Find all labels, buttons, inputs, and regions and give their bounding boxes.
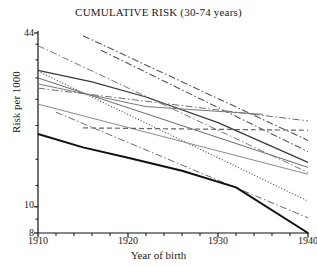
x-tick-label-1930: 1930 xyxy=(198,235,238,246)
series-line-series-8 xyxy=(38,88,308,121)
y-tick-label-10: 10 xyxy=(8,199,34,210)
series-line-series-2 xyxy=(101,50,308,151)
x-tick-label-1940: 1940 xyxy=(288,235,317,246)
x-tick-label-1920: 1920 xyxy=(108,235,148,246)
series-line-series-9 xyxy=(38,104,308,174)
series-line-series-5 xyxy=(38,71,308,201)
chart-figure: CUMULATIVE RISK (30-74 years) Risk per 1… xyxy=(0,0,317,266)
plot-canvas xyxy=(0,0,317,266)
x-tick-label-1910: 1910 xyxy=(18,235,58,246)
series-line-series-6 xyxy=(38,78,308,167)
series-line-series-12 xyxy=(38,134,308,233)
y-tick-label-44: 44 xyxy=(8,27,34,38)
